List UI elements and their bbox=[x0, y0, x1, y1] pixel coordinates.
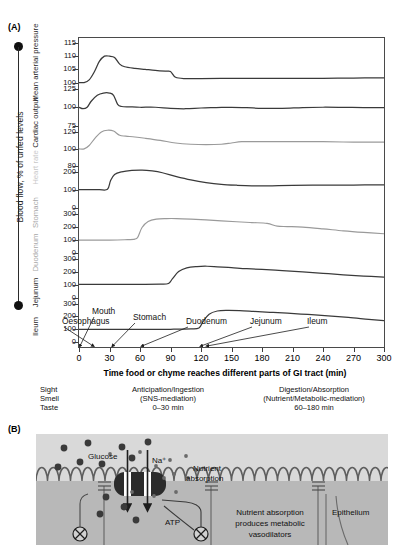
phase-cell: (SNS-mediation) bbox=[98, 394, 238, 403]
y-tick-mark bbox=[73, 208, 78, 209]
glucose-particle bbox=[145, 439, 152, 446]
glucose-particle bbox=[97, 511, 104, 518]
y-tick-mark bbox=[73, 43, 78, 44]
y-tick-mark bbox=[73, 316, 78, 317]
y-tick-mark bbox=[73, 89, 78, 90]
epithelium-label: Epithelium bbox=[332, 508, 369, 517]
x-tick-label: 30 bbox=[95, 353, 125, 363]
trace-duodenum bbox=[79, 219, 384, 241]
x-tick-label: 150 bbox=[217, 353, 247, 363]
y-tick-mark bbox=[73, 132, 78, 133]
atp-label: ATP bbox=[165, 518, 180, 527]
phase-cell: 60–180 min bbox=[238, 403, 390, 412]
glucose-particle bbox=[121, 504, 128, 511]
y-tick-mark bbox=[73, 329, 78, 330]
glucose-particle bbox=[129, 455, 136, 462]
phase-column-anticipation: Anticipation/Ingestion (SNS-mediation) 0… bbox=[98, 385, 238, 413]
glucose-particle bbox=[99, 461, 106, 468]
x-tick-label: 240 bbox=[308, 353, 338, 363]
nutrient-absorption-label-line2: absorption bbox=[186, 474, 223, 483]
phase-cell: Digestion/Absorption bbox=[238, 385, 390, 394]
y-tick-mark bbox=[73, 304, 78, 305]
y-tick-mark bbox=[73, 253, 78, 254]
y-axis-title: Blood flow, % of unfed levels bbox=[15, 97, 25, 237]
x-axis-title: Time food or chyme reaches different par… bbox=[55, 368, 395, 378]
glucose-particle bbox=[103, 494, 110, 501]
phase-cell: 0–30 min bbox=[98, 403, 238, 412]
epithelium-diagram: Glucose Na⁺ Nutrient absorption ATP Nutr… bbox=[36, 434, 388, 545]
sodium-particle bbox=[130, 490, 134, 494]
phase-cell: Taste bbox=[40, 403, 98, 412]
sodium-particle bbox=[168, 458, 172, 462]
y-tick-mark bbox=[73, 172, 78, 173]
organ-arrow-stomach bbox=[113, 323, 135, 346]
trace-mean-arterial-pressure bbox=[79, 56, 384, 83]
glucose-particle bbox=[133, 517, 140, 524]
phase-cell: Anticipation/Ingestion bbox=[98, 385, 238, 394]
organ-arrow-oesophagus bbox=[64, 327, 93, 346]
nutrient-absorption-label-line1: Nutrient bbox=[193, 464, 221, 473]
phase-column-stimuli: Sight Smell Taste bbox=[40, 385, 98, 413]
glucose-particle bbox=[77, 459, 84, 466]
organ-arrow-duodenum bbox=[142, 327, 188, 346]
y-tick-mark bbox=[73, 107, 78, 108]
phase-cell: Smell bbox=[40, 394, 98, 403]
sodium-particle bbox=[184, 454, 188, 458]
glucose-particle bbox=[85, 440, 92, 447]
x-tick-label: 270 bbox=[339, 353, 369, 363]
trace-stomach bbox=[79, 170, 384, 190]
y-tick-mark bbox=[73, 342, 78, 343]
panel-a-tag: (A) bbox=[8, 22, 21, 32]
organ-arrow-ileum bbox=[207, 327, 309, 346]
y-tick-mark bbox=[73, 272, 78, 273]
x-tick-label: 180 bbox=[247, 353, 277, 363]
sodium-particle bbox=[172, 472, 176, 476]
y-tick-mark bbox=[73, 56, 78, 57]
sodium-particle bbox=[162, 476, 166, 480]
panel-b: (B) bbox=[0, 420, 395, 545]
trace-heart-rate bbox=[79, 130, 384, 149]
blood-flow-bracket: Blood flow, % of unfed levels bbox=[12, 42, 26, 310]
y-tick-mark bbox=[73, 69, 78, 70]
organ-annotation-stomach: Stomach bbox=[133, 312, 166, 322]
x-tick-label: 60 bbox=[125, 353, 155, 363]
x-tick-label: 210 bbox=[278, 353, 308, 363]
phase-column-digestion: Digestion/Absorption (Nutrient/Metabolic… bbox=[238, 385, 390, 413]
sodium-particle bbox=[152, 494, 156, 498]
panel-b-tag: (B) bbox=[8, 424, 21, 434]
organ-annotation-ileum: Ileum bbox=[307, 316, 328, 326]
x-tick-label: 0 bbox=[64, 353, 94, 363]
phase-cell: Sight bbox=[40, 385, 98, 394]
organ-annotation-duodenum: Duodenum bbox=[186, 316, 227, 326]
x-tick-label: 90 bbox=[156, 353, 186, 363]
sodium-label: Na⁺ bbox=[152, 456, 166, 465]
organ-annotation-oesophagus: Oesophagus bbox=[62, 316, 110, 326]
y-tick-mark bbox=[73, 83, 78, 84]
y-tick-mark bbox=[73, 149, 78, 150]
phase-table: Sight Smell Taste Anticipation/Ingestion… bbox=[40, 385, 390, 413]
metabolic-vasodilator-line3: vasodilators bbox=[222, 530, 318, 539]
x-tick-label: 120 bbox=[186, 353, 216, 363]
y-tick-mark bbox=[73, 240, 78, 241]
organ-annotation-mouth: Mouth bbox=[92, 306, 116, 316]
y-tick-mark bbox=[73, 126, 78, 127]
epithelium-svg bbox=[36, 434, 388, 545]
y-tick-mark bbox=[73, 298, 78, 299]
x-tick-label: 300 bbox=[369, 353, 395, 363]
organ-arrow-jejunum bbox=[201, 327, 252, 346]
glucose-particle bbox=[61, 445, 68, 452]
glucose-particle bbox=[119, 444, 126, 451]
y-tick-mark bbox=[73, 214, 78, 215]
phase-cell: (Nutrient/Metabolic-mediation) bbox=[238, 394, 390, 403]
metabolic-vasodilator-line1: Nutrient absorption bbox=[222, 508, 318, 517]
metabolic-vasodilator-line2: produces metabolic bbox=[222, 519, 318, 528]
sodium-particle bbox=[174, 490, 178, 494]
panel-a: (A) Blood flow, % of unfed levels Mean a… bbox=[0, 0, 395, 420]
sodium-particle bbox=[138, 450, 142, 454]
y-tick-mark bbox=[73, 259, 78, 260]
y-tick-mark bbox=[73, 227, 78, 228]
y-tick-mark bbox=[73, 190, 78, 191]
organ-annotation-jejunum: Jejunum bbox=[250, 316, 282, 326]
glucose-label: Glucose bbox=[88, 452, 117, 461]
trace-cardiac-output bbox=[79, 93, 384, 109]
